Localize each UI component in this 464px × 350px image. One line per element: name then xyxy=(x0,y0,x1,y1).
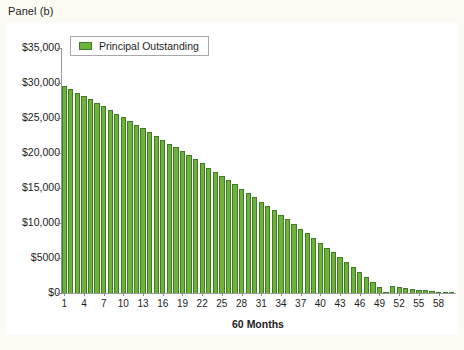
bar xyxy=(403,288,408,293)
x-axis-tick-label: 7 xyxy=(101,298,107,309)
bar xyxy=(88,99,93,293)
bar xyxy=(298,229,303,293)
x-axis-tick-label: 16 xyxy=(157,298,168,309)
bar xyxy=(318,243,323,293)
x-axis-tick-label: 40 xyxy=(315,298,326,309)
chart-panel: $0$5000$10,000$15,000$20,000$25,000$30,0… xyxy=(6,22,458,335)
x-axis-tick-label: 31 xyxy=(256,298,267,309)
x-axis-tick-label: 25 xyxy=(216,298,227,309)
bar xyxy=(265,206,270,293)
bar xyxy=(200,163,205,293)
x-axis-tick-mark xyxy=(281,293,282,296)
y-axis-tick-label: $30,000 xyxy=(22,76,60,88)
x-axis-tick-mark xyxy=(379,293,380,296)
x-axis-tick-mark xyxy=(182,293,183,296)
bar xyxy=(213,172,218,293)
bar xyxy=(429,291,434,293)
x-axis-tick-mark xyxy=(320,293,321,296)
y-axis-tick-label: $25,000 xyxy=(22,111,60,123)
x-axis-tick-mark xyxy=(143,293,144,296)
legend-label-principal-outstanding: Principal Outstanding xyxy=(99,40,199,52)
bar xyxy=(272,210,277,293)
bar xyxy=(147,132,152,293)
bar xyxy=(94,103,99,293)
bar xyxy=(121,117,126,293)
bar xyxy=(75,93,80,293)
bar xyxy=(246,193,251,293)
bar xyxy=(160,140,165,293)
x-axis-line xyxy=(61,293,456,294)
x-axis-tick-mark xyxy=(301,293,302,296)
x-axis-tick-label: 13 xyxy=(138,298,149,309)
x-axis-tick-label: 4 xyxy=(81,298,87,309)
x-axis-tick-label: 28 xyxy=(236,298,247,309)
bar xyxy=(351,267,356,293)
x-axis-tick-label: 1 xyxy=(62,298,68,309)
bar xyxy=(252,197,257,293)
x-axis-tick-mark xyxy=(84,293,85,296)
bar xyxy=(173,147,178,293)
bar xyxy=(108,110,113,293)
bar xyxy=(410,289,415,293)
bar xyxy=(436,292,441,294)
bar xyxy=(81,96,86,293)
bar xyxy=(219,176,224,293)
x-axis-tick-label: 43 xyxy=(335,298,346,309)
bar xyxy=(364,277,369,293)
x-axis-tick-label: 46 xyxy=(354,298,365,309)
bar xyxy=(232,184,237,293)
bar xyxy=(68,89,73,293)
x-axis-title: 60 Months xyxy=(61,318,455,330)
bar xyxy=(337,257,342,293)
bar xyxy=(423,290,428,293)
bar xyxy=(305,233,310,293)
bar xyxy=(278,215,283,293)
x-axis-tick-mark xyxy=(419,293,420,296)
bar xyxy=(154,136,159,293)
x-axis-tick-label: 22 xyxy=(197,298,208,309)
x-axis-tick-mark xyxy=(202,293,203,296)
bar xyxy=(311,238,316,293)
x-axis-tick-mark xyxy=(439,293,440,296)
chart-legend: Principal Outstanding xyxy=(70,36,209,56)
bar xyxy=(101,106,106,293)
legend-swatch-principal-outstanding xyxy=(79,42,92,50)
y-axis-tick-label: $20,000 xyxy=(22,146,60,158)
bar xyxy=(239,189,244,294)
x-axis-tick-mark xyxy=(340,293,341,296)
page-title: Panel (b) xyxy=(8,5,54,17)
y-axis-tick-label: $15,000 xyxy=(22,181,60,193)
bar xyxy=(140,128,145,293)
bar xyxy=(186,155,191,293)
x-axis-tick-label: 37 xyxy=(295,298,306,309)
bar xyxy=(134,125,139,293)
y-axis-tick-label: $35,000 xyxy=(22,41,60,53)
y-axis-tick-label: $10,000 xyxy=(22,216,60,228)
bar xyxy=(377,287,382,293)
x-axis-tick-mark xyxy=(261,293,262,296)
bar xyxy=(383,292,388,294)
x-axis-tick-mark xyxy=(222,293,223,296)
x-axis-tick-mark xyxy=(104,293,105,296)
bar-series-principal-outstanding xyxy=(61,48,455,293)
x-axis-tick-label: 58 xyxy=(433,298,444,309)
bar xyxy=(370,282,375,293)
y-axis-tick-label: $0 xyxy=(48,286,60,298)
x-axis-tick-label: 10 xyxy=(118,298,129,309)
x-axis-tick-mark xyxy=(360,293,361,296)
bar xyxy=(357,272,362,293)
x-axis-tick-label: 49 xyxy=(374,298,385,309)
bar xyxy=(62,86,67,293)
bar xyxy=(449,292,454,294)
x-axis-tick-mark xyxy=(163,293,164,296)
x-axis-tick-label: 52 xyxy=(394,298,405,309)
bar xyxy=(285,219,290,293)
x-axis-tick-mark xyxy=(64,293,65,296)
bar xyxy=(291,224,296,293)
bar xyxy=(443,292,448,294)
bar xyxy=(331,252,336,293)
bar xyxy=(416,290,421,294)
y-axis-tick-label: $5000 xyxy=(31,251,60,263)
bar xyxy=(114,114,119,293)
bar xyxy=(390,286,395,293)
